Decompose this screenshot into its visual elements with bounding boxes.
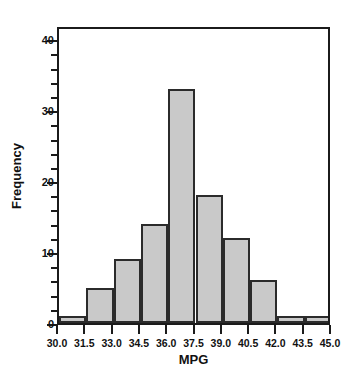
y-axis-tick-label: 30 <box>26 106 54 117</box>
histogram-bar <box>168 89 195 323</box>
y-axis-title-label: Frequency <box>4 27 30 325</box>
histogram-bar <box>86 288 113 323</box>
x-axis-tick <box>329 325 331 334</box>
histogram-bar <box>196 195 223 323</box>
x-axis-tick <box>220 325 222 334</box>
x-axis-title: MPG <box>57 352 330 367</box>
y-axis-tick-label: 40 <box>26 35 54 46</box>
y-axis-tick-label: 20 <box>26 177 54 188</box>
bar-series <box>59 29 328 323</box>
x-axis-tick <box>247 325 249 334</box>
x-axis-tick <box>111 325 113 334</box>
y-axis-tick-label: 10 <box>26 248 54 259</box>
x-axis-tick <box>138 325 140 334</box>
histogram-bar <box>277 316 304 323</box>
x-axis-tick <box>193 325 195 334</box>
histogram-bar <box>250 280 277 323</box>
x-axis-tick <box>302 325 304 334</box>
x-axis-tick <box>274 325 276 334</box>
histogram-bar <box>59 316 86 323</box>
histogram-bar <box>114 259 141 323</box>
histogram-chart: Frequency 010203040 30.031.533.034.536.0… <box>0 0 356 372</box>
y-axis-tick-label: 0 <box>26 319 54 330</box>
x-axis-tick <box>56 325 58 334</box>
y-axis-title: Frequency <box>4 27 30 325</box>
histogram-bar <box>223 238 250 323</box>
histogram-bar <box>141 224 168 323</box>
plot-area <box>57 27 330 325</box>
histogram-bar <box>305 316 330 323</box>
x-axis-tick <box>165 325 167 334</box>
x-axis-tick-label: 45.0 <box>310 337 350 349</box>
x-axis-tick <box>83 325 85 334</box>
